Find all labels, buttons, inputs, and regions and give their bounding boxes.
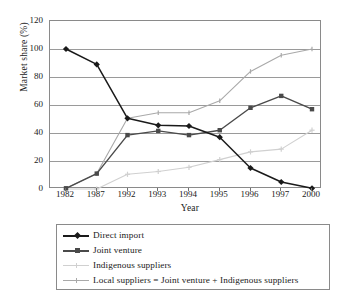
x-tick-label: 1987 xyxy=(87,190,105,199)
y-axis-tick-labels: 020406080100120 xyxy=(0,20,47,188)
data-point-cross xyxy=(217,157,222,162)
data-point-diamond xyxy=(278,179,284,185)
x-tick-label: 2000 xyxy=(302,190,320,199)
x-tick-label: 1994 xyxy=(179,190,197,199)
data-point-cross xyxy=(248,149,253,154)
x-tick-label: 1995 xyxy=(210,190,228,199)
series-line xyxy=(66,96,312,188)
legend-marker-cross-icon xyxy=(63,260,89,272)
x-axis-title: Year xyxy=(48,203,332,213)
x-tick-label: 1996 xyxy=(241,190,259,199)
y-tick-label: 120 xyxy=(1,16,43,25)
x-tick-label: 1997 xyxy=(271,190,289,199)
data-point-square xyxy=(248,106,252,110)
y-tick-label: 20 xyxy=(1,156,43,165)
x-tick-label: 1993 xyxy=(148,190,166,199)
data-point-square xyxy=(310,107,314,111)
x-axis-tick-labels: 198219871992199319941995199619972000 xyxy=(49,190,321,204)
data-point-cross xyxy=(156,169,161,174)
chart-container: Market share (%) 020406080100120 1982198… xyxy=(0,0,338,297)
y-tick-label: 80 xyxy=(1,72,43,81)
y-tick-label: 40 xyxy=(1,128,43,137)
x-tick-label: 1992 xyxy=(118,190,136,199)
data-point-cross xyxy=(309,128,314,133)
data-point-diamond xyxy=(124,115,130,121)
data-point-square xyxy=(95,171,99,175)
data-point-cross xyxy=(125,172,130,177)
series-joint-venture xyxy=(64,94,314,191)
legend-marker-diamond-icon xyxy=(63,230,89,242)
legend-marker-tick-icon xyxy=(63,275,89,287)
legend-marker-square-icon xyxy=(63,245,89,257)
legend-item[interactable]: Local suppliers = Joint venture + Indige… xyxy=(57,273,329,288)
legend-label: Direct import xyxy=(93,231,144,240)
plot-area xyxy=(49,20,321,188)
y-tick-label: 60 xyxy=(1,100,43,109)
data-point-square xyxy=(279,94,283,98)
data-point-diamond xyxy=(94,61,100,67)
data-point-cross xyxy=(186,165,191,170)
series-line xyxy=(66,130,312,189)
data-point-square xyxy=(156,129,160,133)
legend-item[interactable]: Direct import xyxy=(57,228,329,243)
data-point-square xyxy=(125,133,129,137)
legend-item[interactable]: Joint venture xyxy=(57,243,329,258)
data-point-cross xyxy=(279,147,284,152)
data-point-diamond xyxy=(155,122,161,128)
data-point-diamond xyxy=(63,46,69,52)
data-point-square xyxy=(187,133,191,137)
y-tick-label: 0 xyxy=(1,184,43,193)
legend-item[interactable]: Indigenous suppliers xyxy=(57,258,329,273)
legend-label: Local suppliers = Joint venture + Indige… xyxy=(93,276,298,285)
legend-label: Indigenous suppliers xyxy=(93,261,171,270)
legend-label: Joint venture xyxy=(93,246,142,255)
chart-legend: Direct importJoint ventureIndigenous sup… xyxy=(56,224,330,290)
data-point-diamond xyxy=(186,123,192,129)
y-tick-label: 100 xyxy=(1,44,43,53)
x-tick-label: 1982 xyxy=(56,190,74,199)
series-lines xyxy=(50,21,322,189)
data-point-square xyxy=(218,128,222,132)
